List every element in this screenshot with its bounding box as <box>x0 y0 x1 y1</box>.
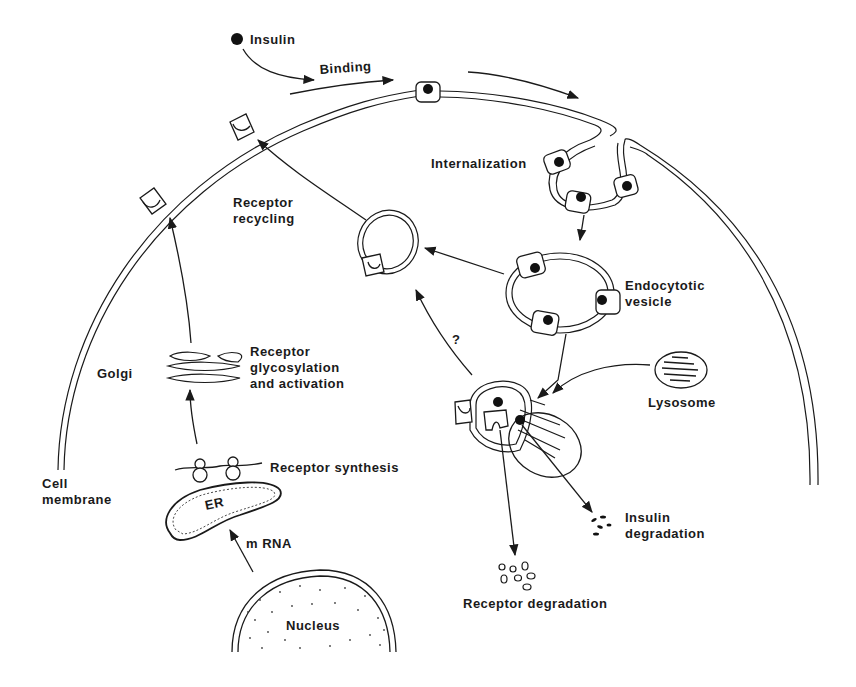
golgi-to-membrane-arrow <box>170 218 191 343</box>
vesicle-to-recycling-arrow <box>425 248 504 274</box>
golgi <box>168 352 242 382</box>
internalization-arrow <box>580 215 584 240</box>
endocytotic-label-2: vesicle <box>625 294 672 309</box>
nucleus-label: Nucleus <box>286 618 340 633</box>
empty-receptor-lower <box>140 188 166 214</box>
internalization-label: Internalization <box>431 156 527 171</box>
question-arrow <box>416 290 472 375</box>
recycling-vesicle <box>349 202 427 283</box>
vesicle-to-lysosome-fusion-arrow <box>538 334 566 398</box>
endocytotic-vesicle <box>506 251 620 336</box>
lysosome <box>655 352 707 388</box>
insulin-receptor-diagram: Insulin Binding Internalization Endocyto… <box>0 0 856 687</box>
insulin-label: Insulin <box>250 32 295 47</box>
receptor-synthesis-label: Receptor synthesis <box>270 460 399 475</box>
insulin-degradation-label-1: Insulin <box>625 510 670 525</box>
receptor-degradation-label: Receptor degradation <box>463 596 607 611</box>
receptor-fragments-icon <box>499 562 535 590</box>
lysosome-label: Lysosome <box>648 395 716 410</box>
receptor-recycling-label-2: recycling <box>233 211 295 226</box>
insulin-fragments-icon <box>591 516 612 536</box>
binding-arrow <box>290 80 393 94</box>
lysosome-fusion-arrow <box>553 364 650 393</box>
secondary-lysosome <box>455 381 593 490</box>
insulin-icon <box>231 33 243 45</box>
insulin-degradation-label-2: degradation <box>625 526 705 541</box>
question-label: ? <box>452 332 460 347</box>
coated-pit <box>542 140 639 214</box>
nucleus <box>232 570 396 652</box>
er-to-golgi-arrow <box>190 390 197 444</box>
bound-receptor-surface <box>416 82 440 102</box>
empty-receptor-upper <box>230 114 254 140</box>
endoplasmic-reticulum <box>166 457 281 540</box>
mrna-label: m RNA <box>246 536 292 551</box>
receptor-recycling-label-1: Receptor <box>233 195 293 210</box>
golgi-label: Golgi <box>97 366 133 381</box>
glycosylation-label-2: glycosylation <box>250 360 340 375</box>
insulin-arrow <box>243 49 314 80</box>
binding-label: Binding <box>319 58 372 77</box>
endocytotic-label-1: Endocytotic <box>625 278 705 293</box>
cell-membrane-label-2: membrane <box>42 492 112 507</box>
glycosylation-label-1: Receptor <box>250 344 310 359</box>
glycosylation-label-3: and activation <box>250 376 344 391</box>
cell-membrane-label-1: Cell <box>42 476 68 491</box>
